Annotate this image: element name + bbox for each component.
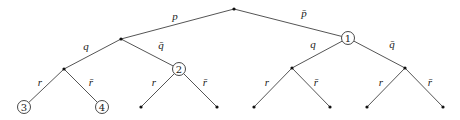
node-dot (290, 66, 293, 69)
node-dot (403, 66, 406, 69)
edge-label: r (38, 76, 43, 88)
tree-edge (29, 69, 64, 103)
tree-edge (141, 74, 174, 107)
node-dot (328, 105, 331, 108)
numbered-node: 3 (18, 101, 31, 114)
tree-edges (29, 9, 443, 107)
edge-label: p̄ (300, 7, 307, 19)
numbered-node: 2 (173, 63, 186, 76)
edge-label: r (152, 76, 157, 88)
node-number: 1 (345, 33, 351, 44)
edge-label: q̄ (389, 38, 395, 50)
edge-label: r (265, 76, 270, 88)
edge-label: q̄ (158, 39, 164, 51)
node-dot (441, 105, 444, 108)
numbered-node: 1 (342, 32, 355, 45)
edge-label: r (379, 76, 384, 88)
edge-label: q (310, 38, 316, 50)
node-dot (365, 105, 368, 108)
tree-edge-labels: pp̄qq̄rr̄rr̄qq̄rr̄rr̄ (38, 7, 433, 88)
tree-nodes: 1234 (18, 7, 445, 113)
tree-edge (292, 68, 330, 107)
tree-edge (184, 74, 217, 107)
edge-label: p (171, 10, 178, 22)
probability-tree-diagram: pp̄qq̄rr̄rr̄qq̄rr̄rr̄ 1234 (0, 0, 460, 120)
edge-label: r̄ (203, 76, 208, 88)
tree-edge (292, 41, 342, 68)
tree-edge (354, 41, 405, 68)
node-number: 2 (176, 64, 182, 75)
tree-edge (64, 39, 121, 69)
node-dot (252, 105, 255, 108)
node-dot (232, 7, 235, 10)
tree-edge (121, 39, 173, 66)
node-dot (215, 105, 218, 108)
edge-label: r̄ (428, 76, 433, 88)
node-number: 4 (99, 102, 105, 113)
tree-edge (367, 68, 405, 107)
node-dot (139, 105, 142, 108)
tree-edge (254, 68, 292, 107)
tree-edge (405, 68, 443, 107)
node-number: 3 (21, 102, 27, 113)
tree-edge (234, 9, 342, 36)
node-dot (119, 37, 122, 40)
edge-label: q (83, 40, 89, 52)
edge-label: r̄ (314, 76, 319, 88)
numbered-node: 4 (96, 101, 109, 114)
edge-label: r̄ (89, 76, 94, 88)
node-dot (62, 67, 65, 70)
